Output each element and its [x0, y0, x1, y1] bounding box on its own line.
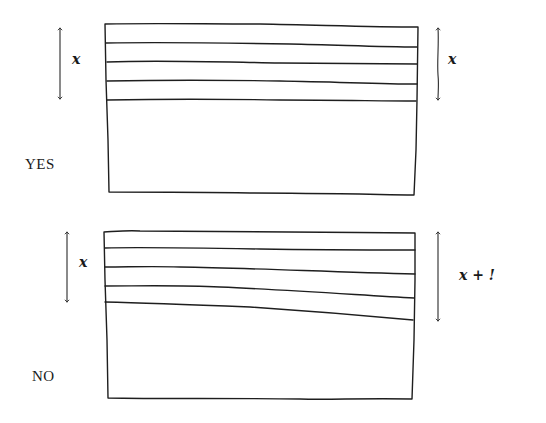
layer-line-no-4	[105, 302, 413, 320]
box-outline-no	[104, 231, 415, 400]
right-thickness-label-no: x + !	[459, 268, 495, 282]
double-arrow-icon	[438, 28, 439, 100]
layer-line-yes-2	[107, 61, 417, 64]
diagram-canvas	[0, 0, 546, 423]
layer-line-no-1	[105, 248, 415, 250]
layer-line-yes-3	[107, 80, 417, 84]
layer-line-yes-4	[107, 99, 416, 101]
panel-yes	[60, 24, 438, 195]
layer-line-yes-1	[106, 43, 417, 47]
verdict-label-no: NO	[32, 369, 55, 384]
box-outline-yes	[105, 24, 418, 195]
left-thickness-label-no: x	[79, 255, 87, 269]
verdict-label-yes: YES	[25, 157, 55, 172]
layer-line-no-2	[105, 267, 415, 274]
panel-no	[67, 231, 438, 400]
right-thickness-label-yes: x	[448, 52, 456, 66]
left-thickness-label-yes: x	[72, 52, 80, 66]
layer-line-no-3	[105, 286, 414, 298]
